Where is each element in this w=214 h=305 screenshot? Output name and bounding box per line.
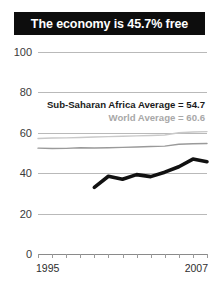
y-axis-tick-label: 40 bbox=[2, 167, 32, 179]
y-axis-tick-label: 0 bbox=[2, 248, 32, 260]
x-axis-tick bbox=[66, 254, 67, 258]
x-axis-tick bbox=[137, 254, 138, 258]
y-axis-tick-label: 80 bbox=[2, 86, 32, 98]
x-axis-tick bbox=[38, 254, 39, 258]
world-average-annotation: World Average = 60.6 bbox=[109, 112, 205, 123]
series-lines bbox=[38, 52, 207, 254]
x-axis-tick bbox=[151, 254, 152, 258]
world-average-line bbox=[38, 132, 207, 139]
x-axis-tick bbox=[165, 254, 166, 258]
y-axis-tick-label: 20 bbox=[2, 208, 32, 220]
x-axis-label-start: 1995 bbox=[36, 262, 59, 274]
y-axis-tick-label: 100 bbox=[2, 46, 32, 58]
africa-average-line bbox=[38, 144, 207, 149]
africa-average-annotation: Sub-Saharan Africa Average = 54.7 bbox=[47, 99, 205, 110]
economic-freedom-chart: The economy is 45.7% free 020406080100 1… bbox=[0, 0, 214, 305]
x-axis-tick bbox=[123, 254, 124, 258]
x-axis-tick bbox=[94, 254, 95, 258]
x-axis-tick bbox=[108, 254, 109, 258]
x-axis-label-end: 2007 bbox=[185, 262, 208, 274]
plot-area bbox=[38, 52, 207, 254]
chart-title-bar: The economy is 45.7% free bbox=[14, 12, 205, 35]
y-axis-tick-label: 60 bbox=[2, 127, 32, 139]
country-freedom-line bbox=[94, 159, 207, 187]
x-axis-tick bbox=[52, 254, 53, 258]
x-axis-tick bbox=[80, 254, 81, 258]
page-title: The economy is 45.7% free bbox=[31, 17, 188, 31]
x-axis-tick bbox=[207, 254, 208, 258]
x-axis-tick bbox=[193, 254, 194, 258]
x-axis-tick bbox=[179, 254, 180, 258]
